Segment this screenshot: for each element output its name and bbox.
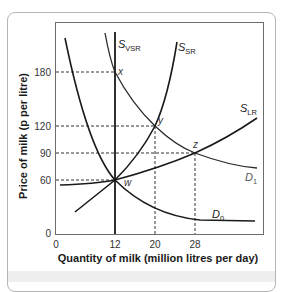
y-tick-120: 120 bbox=[34, 121, 51, 132]
point-z-label: z bbox=[192, 139, 198, 150]
y-tick-180: 180 bbox=[34, 67, 51, 78]
supply-curve-lr bbox=[60, 118, 257, 185]
point-w-label: w bbox=[124, 177, 132, 188]
demand-curve-d0 bbox=[65, 38, 255, 221]
y-tick-60: 60 bbox=[40, 175, 52, 186]
point-x-label: x bbox=[117, 66, 124, 77]
label-s-vsr: SVSR bbox=[118, 38, 141, 53]
demand-curve-d1 bbox=[105, 33, 257, 168]
label-s-sr: SSR bbox=[178, 41, 196, 56]
x-tick-0: 0 bbox=[53, 239, 59, 250]
x-tick-20: 20 bbox=[149, 239, 161, 250]
y-axis-title: Price of milk (p per litre) bbox=[17, 73, 29, 199]
point-y-label: y bbox=[157, 115, 164, 126]
y-tick-90: 90 bbox=[40, 148, 52, 159]
y-tick-0: 0 bbox=[45, 228, 51, 239]
x-tick-12: 12 bbox=[109, 239, 121, 250]
x-tick-28: 28 bbox=[189, 239, 201, 250]
label-d1: D1 bbox=[245, 171, 257, 186]
label-s-lr: SLR bbox=[240, 102, 258, 117]
x-axis-title: Quantity of milk (million litres per day… bbox=[58, 252, 259, 264]
